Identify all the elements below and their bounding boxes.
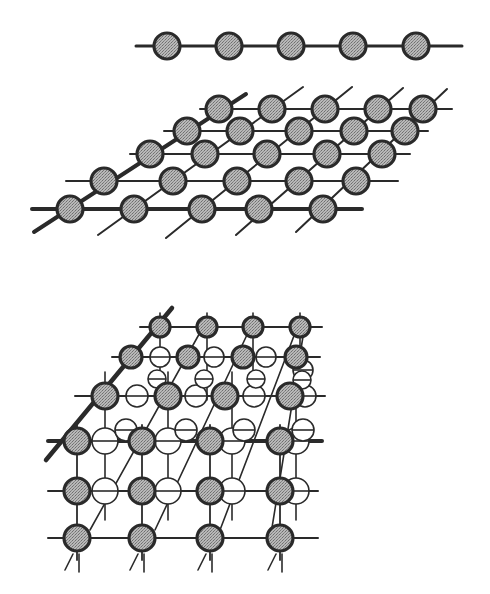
atom <box>232 346 254 368</box>
atom <box>192 141 218 167</box>
atom <box>224 168 250 194</box>
atom <box>155 383 181 409</box>
atom <box>150 317 170 337</box>
atom <box>341 118 367 144</box>
atom <box>365 96 391 122</box>
stub-bond <box>268 554 276 570</box>
atom <box>278 33 304 59</box>
atom <box>129 478 155 504</box>
atom <box>177 346 199 368</box>
atom <box>267 428 293 454</box>
atom <box>392 118 418 144</box>
atom <box>267 525 293 551</box>
atom <box>312 96 338 122</box>
atom <box>216 33 242 59</box>
atom <box>137 141 163 167</box>
atom <box>64 428 90 454</box>
atom <box>206 96 232 122</box>
atom <box>64 525 90 551</box>
atom <box>129 525 155 551</box>
lattice-2d <box>32 87 452 238</box>
atom <box>285 346 307 368</box>
atom <box>197 428 223 454</box>
atom <box>227 118 253 144</box>
atom <box>410 96 436 122</box>
atom <box>314 141 340 167</box>
atom <box>340 33 366 59</box>
atom <box>92 383 118 409</box>
atom <box>369 141 395 167</box>
atom <box>197 317 217 337</box>
atom <box>154 33 180 59</box>
atom <box>286 118 312 144</box>
atom <box>174 118 200 144</box>
atom <box>91 168 117 194</box>
atom <box>310 196 336 222</box>
atom <box>57 196 83 222</box>
atom <box>403 33 429 59</box>
atom <box>277 383 303 409</box>
atom <box>259 96 285 122</box>
atom <box>197 478 223 504</box>
atom <box>254 141 280 167</box>
chain-1d <box>136 33 462 59</box>
atom <box>160 168 186 194</box>
stub-bond <box>130 554 138 570</box>
lattice-3d <box>46 308 325 572</box>
atom <box>290 317 310 337</box>
atom <box>129 428 155 454</box>
lattice-figure <box>0 0 490 594</box>
stub-bond <box>65 554 73 570</box>
atom <box>120 346 142 368</box>
atom <box>64 478 90 504</box>
atom <box>343 168 369 194</box>
atom <box>267 478 293 504</box>
atom <box>121 196 147 222</box>
lattice-diagram <box>0 0 490 594</box>
atom <box>212 383 238 409</box>
atom <box>243 317 263 337</box>
atom <box>189 196 215 222</box>
stub-bond <box>198 554 206 570</box>
atom <box>197 525 223 551</box>
atom <box>286 168 312 194</box>
atom <box>246 196 272 222</box>
